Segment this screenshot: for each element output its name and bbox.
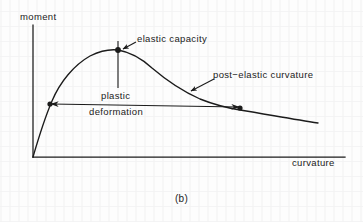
x-axis-label: curvature <box>292 158 335 169</box>
figure-caption: (b) <box>0 193 363 204</box>
post-elastic-curvature-leader-arrow <box>191 79 214 91</box>
plastic-label: plastic <box>101 91 130 102</box>
yield-point-marker <box>47 101 52 106</box>
elastic-capacity-leader-arrow <box>123 42 136 49</box>
plastic-deformation-span-arrow <box>51 104 239 107</box>
y-axis-label: moment <box>20 12 56 23</box>
figure-container: moment elastic capacity post−elastic cur… <box>0 0 363 222</box>
moment-curvature-curve <box>33 50 318 157</box>
post-elastic-curvature-label: post−elastic curvature <box>213 70 313 81</box>
deformation-label: deformation <box>89 107 143 118</box>
elastic-capacity-label: elastic capacity <box>137 34 207 45</box>
plastic-deformation-end-marker <box>237 105 242 110</box>
elastic-capacity-point-marker <box>115 47 121 53</box>
